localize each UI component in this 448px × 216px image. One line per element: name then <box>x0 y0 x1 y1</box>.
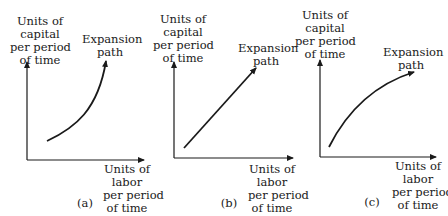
panel-c-graph <box>320 60 436 157</box>
label-line: of time <box>295 48 355 61</box>
panel-a-y-axis-label: Units of capital per period of time <box>10 15 70 67</box>
panel-c-x-axis-label: Units of labor per period of time <box>392 160 444 212</box>
label-line: of time <box>153 52 213 65</box>
panel-c-caption: (c) <box>361 196 383 209</box>
panel-c-expansion-path <box>329 72 414 147</box>
panel-b-curve-label: Expansion path <box>238 42 294 68</box>
panel-a-caption: (a) <box>74 197 96 210</box>
panel-b-expansion-path <box>184 68 256 148</box>
panel-c-y-axis-label: Units of capital per period of time <box>295 9 355 61</box>
panel-a-expansion-path <box>47 61 106 141</box>
label-line: path <box>238 55 294 68</box>
panel-a-graph <box>27 61 144 160</box>
panel-c-curve-label: Expansion path <box>383 46 439 72</box>
panel-b-y-axis-label: Units of capital per period of time <box>153 13 213 65</box>
panel-b-graph <box>174 62 293 158</box>
label-line: path <box>383 59 439 72</box>
label-line: of time <box>392 199 444 212</box>
label-line: of time <box>248 202 296 215</box>
panel-a-curve-label: Expansion path <box>82 33 138 59</box>
panel-a-x-axis-label: Units of labor per period of time <box>103 163 151 215</box>
label-line: of time <box>103 202 151 215</box>
label-line: of time <box>10 54 70 67</box>
panel-b-caption: (b) <box>218 197 240 210</box>
label-line: path <box>82 46 138 59</box>
panel-b-x-axis-label: Units of labor per period of time <box>248 163 296 215</box>
